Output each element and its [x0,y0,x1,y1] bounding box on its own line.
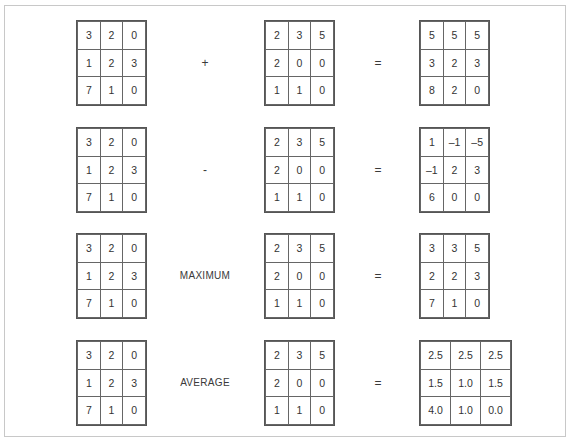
matrix-row: 320 [78,22,146,50]
matrix-cell: 2 [443,156,466,184]
matrix-cell: 1.5 [421,369,451,397]
matrix-cell: 1 [78,156,101,184]
matrix-cell: 3 [78,235,101,263]
matrix-row: 123 [78,156,146,184]
matrix-operand-b-average: 235200110 [264,340,335,426]
matrix-row: 200 [266,369,334,397]
matrix-cell: 0 [311,262,334,290]
matrix-cell: 1 [266,77,289,105]
matrix-cell: 5 [443,22,466,50]
matrix-result-maximum: 335223710 [419,233,490,319]
matrix-row: 235 [266,342,334,370]
matrix-row: 2.52.52.5 [421,342,511,370]
matrix-cell: 0 [288,369,311,397]
matrix-cell: 3 [123,49,146,77]
matrix-cell: 3 [466,262,489,290]
matrix-cell: 3 [466,156,489,184]
matrix-cell: 7 [78,397,101,425]
matrix-cell: 4.0 [421,397,451,425]
matrix-row: 235 [266,22,334,50]
matrix-cell: 2 [266,235,289,263]
operator-symbol-subtraction: - [155,163,255,177]
matrix-cell: 0 [288,156,311,184]
matrix-row: 710 [421,290,489,318]
matrix-cell: 1 [100,290,123,318]
matrix-row: 223 [421,262,489,290]
matrix-cell: 5 [466,235,489,263]
matrix-cell: 0 [311,397,334,425]
equals-symbol-subtraction: = [350,163,406,177]
operator-symbol-maximum: MAXIMUM [155,269,255,283]
matrix-cell: 1 [421,129,444,157]
matrix-cell: 0 [123,235,146,263]
matrix-result-addition: 555323820 [419,20,490,106]
matrix-cell: 5 [311,342,334,370]
matrix-cell: 1.0 [451,369,481,397]
matrix-row: 1–1–5 [421,129,489,157]
matrix-cell: 3 [78,22,101,50]
matrix-cell: 5 [311,129,334,157]
matrix-row: 110 [266,290,334,318]
operation-row-addition: 320123710+235200110=555323820 [5,20,575,106]
matrix-operand-a-average: 320123710 [76,340,147,426]
matrix-cell: 0 [123,129,146,157]
matrix-cell: 1 [288,290,311,318]
matrix-cell: 0 [466,77,489,105]
matrix-cell: 3 [123,369,146,397]
matrix-cell: 7 [78,77,101,105]
operator-symbol-addition: + [155,56,255,70]
figure-frame: 320123710+235200110=555323820 320123710-… [4,5,566,437]
matrix-operand-a-maximum: 320123710 [76,233,147,319]
matrix-row: 123 [78,49,146,77]
matrix-cell: 0 [311,77,334,105]
matrix-operand-b-maximum: 235200110 [264,233,335,319]
matrix-row: 1.51.01.5 [421,369,511,397]
matrix-cell: –1 [421,156,444,184]
matrix-operand-b-addition: 235200110 [264,20,335,106]
matrix-cell: 3 [123,262,146,290]
matrix-cell: 2 [100,22,123,50]
matrix-cell: 0 [311,156,334,184]
matrix-cell: 5 [421,22,444,50]
matrix-cell: 1 [78,49,101,77]
matrix-cell: 1.0 [451,397,481,425]
matrix-cell: 1 [100,184,123,212]
matrix-cell: 2 [266,22,289,50]
matrix-row: 200 [266,49,334,77]
matrix-cell: 2 [443,77,466,105]
matrix-cell: 3 [421,235,444,263]
matrix-cell: 3 [288,235,311,263]
matrix-cell: 2 [266,369,289,397]
matrix-row: 200 [266,156,334,184]
matrix-cell: 2 [266,49,289,77]
matrix-cell: 0 [123,22,146,50]
matrix-cell: 5 [466,22,489,50]
matrix-cell: 1 [100,397,123,425]
matrix-cell: 1 [443,290,466,318]
matrix-cell: 0 [123,342,146,370]
matrix-row: 320 [78,235,146,263]
matrix-cell: 0.0 [481,397,511,425]
matrix-cell: 3 [443,235,466,263]
equals-symbol-addition: = [350,56,406,70]
matrix-cell: 1 [288,77,311,105]
matrix-cell: 3 [123,156,146,184]
matrix-cell: 7 [421,290,444,318]
matrix-row: 123 [78,369,146,397]
matrix-cell: 0 [288,49,311,77]
equals-symbol-average: = [350,376,406,390]
matrix-cell: 2 [100,129,123,157]
matrix-cell: 2.5 [421,342,451,370]
matrix-cell: 2 [266,342,289,370]
matrix-cell: 0 [443,184,466,212]
matrix-cell: 0 [311,49,334,77]
matrix-row: –123 [421,156,489,184]
matrix-cell: 3 [288,22,311,50]
matrix-cell: 1 [288,184,311,212]
operator-symbol-average: AVERAGE [155,376,255,390]
matrix-cell: 1 [78,262,101,290]
matrix-row: 4.01.00.0 [421,397,511,425]
matrix-cell: 2 [100,156,123,184]
matrix-cell: 0 [123,77,146,105]
matrix-cell: 5 [311,22,334,50]
